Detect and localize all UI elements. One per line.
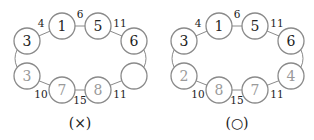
- node-value: 7: [58, 82, 67, 98]
- edge-label: 10: [191, 88, 204, 100]
- node-value: 5: [94, 18, 103, 34]
- figure-caption: (×): [69, 115, 92, 131]
- figure-wrong: 3 1 5 6 3 7 8 4 6 11 10 15 11 (×): [14, 8, 147, 131]
- node-bottom-right: [121, 63, 147, 89]
- edge-label: 11: [113, 17, 126, 29]
- node-value: 4: [287, 68, 296, 84]
- node-value: 1: [215, 18, 224, 34]
- node-value: 3: [180, 33, 189, 49]
- edge-label: 4: [38, 17, 45, 29]
- node-value: 2: [180, 68, 189, 84]
- edge-label: 15: [73, 94, 86, 106]
- node-value: 8: [94, 82, 103, 98]
- node-value: 3: [23, 68, 32, 84]
- edge-label: 10: [34, 88, 47, 100]
- edge-label: 15: [230, 94, 243, 106]
- edge-label: 6: [77, 8, 84, 20]
- edge-label: 11: [270, 88, 283, 100]
- figure-correct: 3 1 5 6 2 8 7 4 4 6 11 10 15 11 (○): [171, 8, 304, 131]
- edge-label: 11: [270, 17, 283, 29]
- diagram-canvas: 3 1 5 6 3 7 8 4 6 11 10 15 11 (×) 3 1: [0, 0, 314, 140]
- node-value: 8: [215, 82, 224, 98]
- edge-label: 6: [234, 8, 241, 20]
- edge-label: 4: [195, 17, 202, 29]
- node-value: 5: [251, 18, 260, 34]
- node-value: 3: [23, 33, 32, 49]
- node-value: 6: [130, 33, 139, 49]
- edge-label: 11: [113, 88, 126, 100]
- figure-caption: (○): [225, 115, 248, 131]
- node-value: 1: [58, 18, 67, 34]
- node-value: 7: [251, 82, 260, 98]
- node-value: 6: [287, 33, 296, 49]
